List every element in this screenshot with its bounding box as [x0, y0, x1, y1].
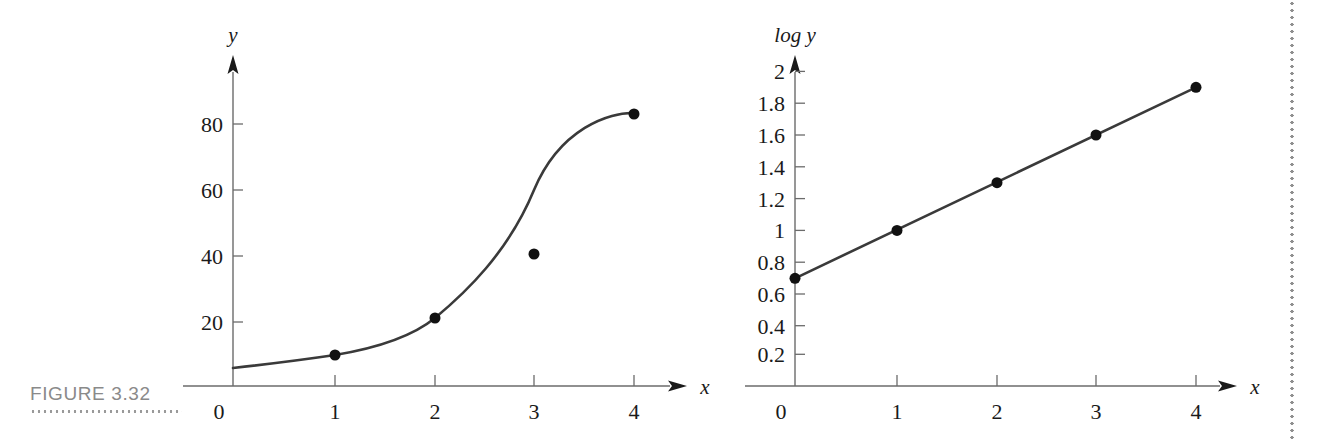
- figure-caption-label: FIGURE 3.32: [30, 383, 200, 405]
- linear-plot-svg: 20 40 60 80 0 1 2 3 4 y x: [150, 0, 710, 442]
- chart-linear-scale: 20 40 60 80 0 1 2 3 4 y x: [150, 0, 710, 442]
- y-tick-label-1-0: 1: [774, 218, 785, 243]
- y-axis-arrowhead: [228, 55, 239, 74]
- y-tick-label-40: 40: [201, 244, 223, 269]
- x-tick-label-1: 1: [330, 399, 341, 424]
- y-tick-label-2-0: 2: [774, 59, 785, 84]
- y-tick-label-80: 80: [201, 112, 223, 137]
- y-tick-label-0-8: 0.8: [758, 250, 786, 275]
- data-point-x1: [892, 225, 903, 236]
- y-tick-label-1-6: 1.6: [758, 123, 786, 148]
- y-axis-title: y: [226, 23, 238, 47]
- data-point-x2: [430, 313, 441, 324]
- x-tick-label-4: 4: [1191, 399, 1202, 424]
- data-point-x4: [1191, 82, 1202, 93]
- y-axis-title: log y: [774, 23, 816, 47]
- log-plot-svg: 0.2 0.4 0.6 0.8 1 1.2 1.4 1.6 1.8 2 0 1 …: [700, 0, 1290, 442]
- x-tick-label-0: 0: [776, 399, 787, 424]
- x-tick-label-2: 2: [430, 399, 441, 424]
- y-tick-label-1-8: 1.8: [758, 91, 786, 116]
- x-tick-label-4: 4: [629, 399, 640, 424]
- data-point-x2: [992, 177, 1003, 188]
- y-tick-label-20: 20: [201, 310, 223, 335]
- y-tick-label-0-4: 0.4: [758, 314, 786, 339]
- chart-log-scale: 0.2 0.4 0.6 0.8 1 1.2 1.4 1.6 1.8 2 0 1 …: [700, 0, 1290, 442]
- x-tick-label-1: 1: [892, 399, 903, 424]
- caption-dotted-rule: [30, 410, 182, 413]
- exponential-curve: [233, 113, 634, 368]
- data-point-x1: [330, 350, 341, 361]
- y-tick-label-0-2: 0.2: [758, 342, 786, 367]
- page-edge-dotted-rule: [1290, 0, 1294, 442]
- y-tick-label-1-2: 1.2: [758, 187, 786, 212]
- x-tick-label-2: 2: [992, 399, 1003, 424]
- data-point-x0: [790, 273, 801, 284]
- x-axis-arrowhead: [668, 381, 687, 392]
- y-tick-label-1-4: 1.4: [758, 155, 786, 180]
- x-axis-title: x: [1249, 375, 1260, 399]
- y-tick-label-60: 60: [201, 178, 223, 203]
- data-point-x3: [529, 249, 540, 260]
- y-tick-label-0-6: 0.6: [758, 282, 786, 307]
- x-tick-label-0: 0: [214, 399, 225, 424]
- x-tick-label-3: 3: [1091, 399, 1102, 424]
- figure-caption: FIGURE 3.32: [30, 383, 200, 413]
- x-axis-arrowhead: [1218, 381, 1237, 392]
- x-tick-label-3: 3: [529, 399, 540, 424]
- figure-3-32: 20 40 60 80 0 1 2 3 4 y x: [0, 0, 1322, 442]
- data-point-x4: [629, 109, 640, 120]
- data-point-x3: [1091, 130, 1102, 141]
